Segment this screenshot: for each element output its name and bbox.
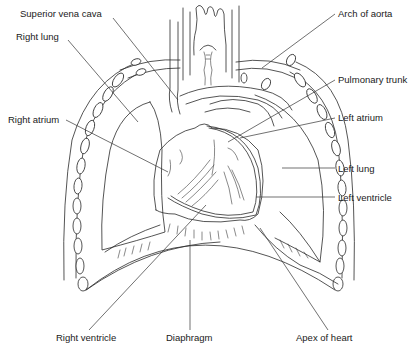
thorax-heart-diagram xyxy=(0,0,417,348)
rib-cage-right xyxy=(64,57,220,291)
heart xyxy=(154,124,263,222)
label-left-lung: Left lung xyxy=(338,163,374,174)
label-superior-vena-cava: Superior vena cava xyxy=(20,8,102,19)
label-left-ventricle: Left ventricle xyxy=(338,192,392,203)
label-right-atrium: Right atrium xyxy=(8,114,59,125)
label-apex-of-heart: Apex of heart xyxy=(296,332,353,343)
great-vessels xyxy=(120,20,300,126)
label-diaphragm: Diaphragm xyxy=(166,332,212,343)
label-arch-of-aorta: Arch of aorta xyxy=(338,8,392,19)
lungs xyxy=(102,95,324,262)
label-left-atrium: Left atrium xyxy=(338,112,383,123)
trachea-and-neck-vessels xyxy=(183,5,239,85)
rib-cage-left xyxy=(290,62,354,291)
label-pulmonary-trunk: Pulmonary trunk xyxy=(338,74,407,85)
label-right-lung: Right lung xyxy=(16,31,59,42)
label-right-ventricle: Right ventricle xyxy=(56,332,116,343)
